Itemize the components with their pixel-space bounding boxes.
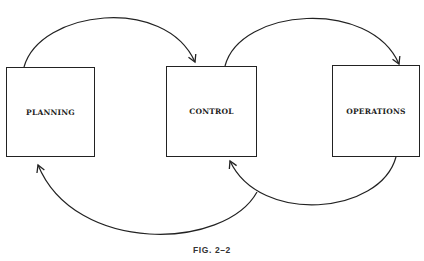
planning-label: PLANNING: [26, 108, 75, 117]
operations-box: OPERATIONS: [332, 65, 420, 157]
arrow-control-to-operations: [225, 18, 399, 66]
planning-box: PLANNING: [6, 67, 95, 157]
flow-diagram: PLANNING CONTROL OPERATIONS FIG. 2–2: [0, 0, 424, 261]
arrow-operations-to-control: [230, 157, 396, 205]
control-box: CONTROL: [166, 66, 257, 157]
control-label: CONTROL: [189, 107, 233, 116]
arrow-planning-to-control: [24, 18, 195, 67]
operations-label: OPERATIONS: [346, 107, 405, 116]
arrow-control-to-planning: [38, 165, 257, 234]
figure-caption: FIG. 2–2: [0, 245, 424, 255]
